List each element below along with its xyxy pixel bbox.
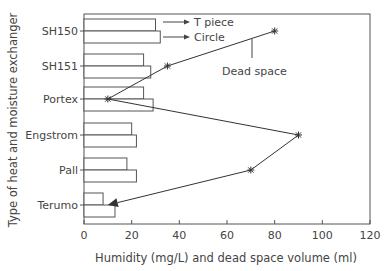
t-piece-label: T piece [193, 16, 234, 29]
category-label: Engstrom [25, 129, 78, 142]
dead-space-label: Dead space [222, 65, 287, 78]
x-axis: 020406080100120 [81, 220, 381, 242]
arrowhead-icon [184, 20, 190, 25]
x-tick-label: 0 [81, 229, 88, 242]
bar-circle [84, 31, 160, 43]
bar-t-piece [84, 54, 144, 66]
bar-circle [84, 135, 136, 147]
x-tick-label: 80 [268, 229, 282, 242]
plot-frame [84, 14, 370, 224]
bar-circle [84, 66, 151, 78]
circle-label: Circle [194, 31, 225, 44]
arrowhead-icon [184, 35, 190, 40]
bar-t-piece [84, 19, 156, 31]
category-label: SH151 [42, 60, 78, 73]
y-axis: SH150SH151PortexEngstromPallTerumo [25, 25, 84, 212]
bar-t-piece [84, 193, 103, 205]
star-marker-icon [247, 167, 254, 174]
category-label: SH150 [42, 25, 78, 38]
star-marker-icon [164, 63, 171, 70]
bar-t-piece [84, 87, 144, 99]
x-axis-title: Humidity (mg/L) and dead space volume (m… [95, 251, 357, 265]
y-axis-title: Type of heat and moisture exchanger [6, 12, 20, 228]
star-marker-icon [104, 96, 111, 103]
category-label: Portex [43, 93, 78, 106]
x-tick-label: 40 [172, 229, 186, 242]
x-tick-label: 100 [312, 229, 333, 242]
bar-t-piece [84, 158, 127, 170]
bars [84, 19, 160, 217]
dead-space-last-segment [118, 170, 251, 203]
star-marker-icon [295, 132, 302, 139]
x-tick-label: 20 [125, 229, 139, 242]
x-tick-label: 120 [360, 229, 381, 242]
bar-circle [84, 170, 136, 182]
star-marker-icon [271, 28, 278, 35]
bar-t-piece [84, 123, 132, 135]
category-label: Terumo [36, 199, 78, 212]
bar-circle [84, 205, 115, 217]
plot-border [84, 14, 370, 224]
category-label: Pall [59, 164, 78, 177]
chart: 020406080100120 SH150SH151PortexEngstrom… [0, 0, 389, 271]
x-tick-label: 60 [220, 229, 234, 242]
